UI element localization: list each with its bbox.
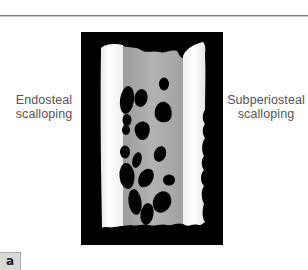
panel-label-a: a — [0, 252, 21, 270]
endosteal-label-line-2: scalloping — [2, 107, 86, 121]
left-cortex — [101, 44, 123, 228]
bone-illustration — [81, 32, 223, 245]
top-divider-rule — [0, 15, 308, 16]
subperiosteal-label-line-2: scalloping — [224, 107, 308, 121]
endosteal-scalloping-label: Endosteal scalloping — [2, 93, 86, 121]
subperiosteal-label-line-1: Subperiosteal — [224, 93, 308, 107]
subperiosteal-scalloping-label: Subperiosteal scalloping — [224, 93, 308, 121]
bone-scalloping-diagram — [81, 32, 223, 245]
endosteal-label-line-1: Endosteal — [2, 93, 86, 107]
right-cortex — [183, 42, 205, 227]
